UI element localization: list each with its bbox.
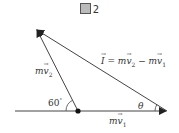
angle-60-arc (66, 100, 73, 111)
label-angle-60: 60° (48, 97, 62, 108)
angle-theta-arc (155, 105, 157, 111)
label-impulse: I = mv2 − mv1 (101, 56, 166, 68)
label-angle-theta: θ (138, 101, 143, 111)
label-mv1: mv1 (109, 116, 126, 128)
vector-diagram: 2 mv2 I = mv2 − mv1 60° θ mv1 (0, 0, 179, 133)
label-mv2: mv2 (35, 66, 52, 78)
origin-dot (75, 108, 80, 113)
